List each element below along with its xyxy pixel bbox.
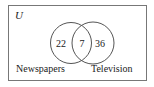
newspapers-only-count: 22 [56,38,66,49]
intersection-count: 7 [80,38,85,49]
universe-label: U [15,9,24,21]
newspapers-label: Newspapers [16,63,65,74]
television-only-count: 36 [95,38,105,49]
television-label: Television [91,63,133,74]
television-circle [72,22,114,64]
venn-diagram: U 22 7 36 Newspapers Television [0,0,154,87]
